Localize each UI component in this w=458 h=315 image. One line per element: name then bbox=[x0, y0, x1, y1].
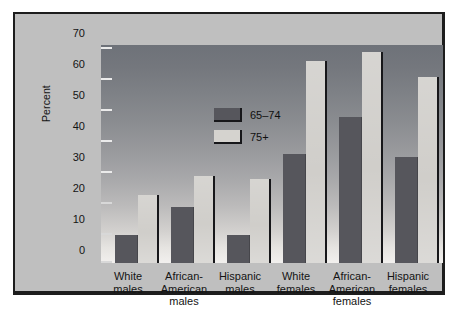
y-tick-mark-10 bbox=[101, 233, 112, 235]
x-category-hispanic-females: Hispanic females bbox=[374, 270, 442, 295]
y-tick-label-40: 40 bbox=[59, 121, 85, 131]
bar-white-males-75-plus bbox=[138, 195, 159, 263]
y-tick-label-50: 50 bbox=[59, 90, 85, 100]
y-tick-mark-20 bbox=[101, 202, 112, 204]
x-label-line: Hispanic bbox=[374, 270, 442, 283]
y-tick-label-70: 70 bbox=[59, 28, 85, 38]
legend-label-65-74: 65–74 bbox=[250, 109, 281, 121]
bar-african-american-females-65-74 bbox=[339, 117, 362, 263]
y-tick-label-60: 60 bbox=[59, 59, 85, 69]
bar-african-american-males-75-plus bbox=[194, 176, 215, 263]
bar-chart-figure: Percent 70 60 50 40 30 20 10 0 65–74 bbox=[0, 0, 458, 315]
y-tick-label-30: 30 bbox=[59, 152, 85, 162]
legend-label-75-plus: 75+ bbox=[250, 131, 269, 143]
bar-hispanic-females-65-74 bbox=[395, 157, 418, 263]
dark-swatch-icon bbox=[214, 108, 242, 122]
y-tick-label-0: 0 bbox=[59, 245, 85, 255]
bar-african-american-males-65-74 bbox=[171, 207, 194, 263]
bar-hispanic-males-75-plus bbox=[250, 179, 271, 263]
y-tick-mark-0 bbox=[101, 261, 112, 263]
bar-hispanic-males-65-74 bbox=[227, 235, 250, 263]
light-swatch-icon bbox=[214, 130, 242, 144]
figure-frame: Percent 70 60 50 40 30 20 10 0 65–74 bbox=[13, 12, 445, 295]
y-tick-label-10: 10 bbox=[59, 214, 85, 224]
bar-white-males-65-74 bbox=[115, 235, 138, 263]
y-tick-mark-70 bbox=[101, 47, 112, 49]
y-tick-mark-60 bbox=[101, 78, 112, 80]
bar-white-females-75-plus bbox=[306, 61, 327, 263]
bar-white-females-65-74 bbox=[283, 154, 306, 263]
y-tick-mark-40 bbox=[101, 140, 112, 142]
y-tick-label-20: 20 bbox=[59, 183, 85, 193]
bar-african-american-females-75-plus bbox=[362, 52, 383, 263]
x-label-line: males bbox=[150, 295, 218, 308]
bar-hispanic-females-75-plus bbox=[418, 77, 439, 263]
x-label-line: females bbox=[374, 283, 442, 296]
y-tick-mark-50 bbox=[101, 109, 112, 111]
x-label-line: females bbox=[318, 295, 386, 308]
y-tick-mark-30 bbox=[101, 171, 112, 173]
y-axis-title: Percent bbox=[40, 85, 52, 122]
plot-area: 65–74 75+ bbox=[101, 45, 443, 263]
